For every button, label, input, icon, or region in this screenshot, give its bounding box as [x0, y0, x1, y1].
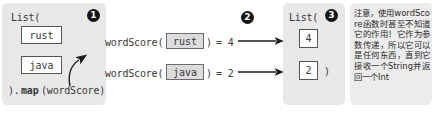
input-item-0: rust [21, 26, 62, 44]
diagram-canvas: List( 1 rust java ). map (wordScore) wor… [0, 0, 433, 118]
output-item-1: 2 [299, 61, 318, 80]
output-list-close-paren: ) [324, 66, 330, 77]
input-item-1: java [21, 56, 62, 74]
input-list-close-paren: ). [8, 85, 20, 96]
equation-1-result: = 2 [216, 68, 233, 79]
input-list-header: List( [11, 12, 40, 23]
note-text: 注意，使用wordScore函数时甚至不知道它的作用！它作为参数传递，所以它可以… [354, 8, 430, 82]
equation-0-argument-box: rust [166, 33, 204, 49]
output-list-header: List( [289, 12, 318, 23]
step-badge-1: 1 [87, 9, 100, 22]
step-badge-3: 3 [325, 9, 338, 22]
equation-1-close-paren: ) [206, 68, 212, 79]
equation-1-argument-box: java [166, 64, 204, 80]
equation-1-function-name: wordScore( [105, 68, 163, 79]
map-method-name: map [21, 85, 38, 96]
equation-0-close-paren: ) [206, 37, 212, 48]
output-item-0: 4 [299, 29, 318, 48]
equation-0-result: = 4 [216, 37, 233, 48]
map-method-argument: (wordScore) [41, 85, 105, 96]
step-badge-2: 2 [241, 11, 254, 24]
equation-0-function-name: wordScore( [105, 37, 163, 48]
